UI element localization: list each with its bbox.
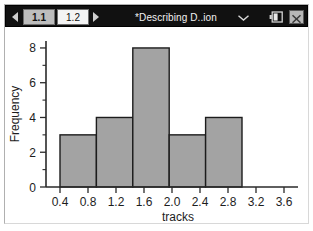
y-tick-label: 0 — [29, 181, 36, 195]
histogram-bar[interactable] — [133, 48, 169, 187]
x-tick-label: 2.4 — [192, 195, 209, 209]
x-tick-label: 0.4 — [52, 195, 69, 209]
x-tick-label: 0.8 — [80, 195, 97, 209]
histogram-svg: 0.40.81.21.62.02.42.83.23.6 02468 tracks… — [6, 29, 306, 222]
histogram-bar[interactable] — [169, 135, 205, 187]
document-title: *Describing D..ion — [106, 10, 246, 25]
tablet-screenshot: 1.1 1.2 *Describing D..ion 0.40.81.21.62… — [0, 0, 313, 231]
histogram-bar[interactable] — [206, 117, 242, 187]
page-tab-1-2[interactable]: 1.2 — [57, 9, 89, 25]
histogram-plot: 0.40.81.21.62.02.42.83.23.6 02468 tracks… — [6, 29, 306, 222]
y-tick-label: 6 — [29, 76, 36, 90]
y-tick-label: 2 — [29, 146, 36, 160]
title-bar: 1.1 1.2 *Describing D..ion — [5, 5, 308, 27]
x-tick-label: 3.6 — [276, 195, 293, 209]
y-tick-label: 4 — [29, 111, 36, 125]
x-axis-ticks: 0.40.81.21.62.02.42.83.23.6 — [52, 187, 293, 209]
y-axis-label: Frequency — [8, 86, 22, 143]
chevron-down-icon[interactable] — [238, 15, 249, 21]
close-button[interactable] — [289, 10, 304, 24]
page-tab-1-1[interactable]: 1.1 — [23, 9, 55, 25]
battery-icon — [269, 11, 285, 23]
x-tick-label: 2.8 — [220, 195, 237, 209]
x-tick-label: 1.2 — [108, 195, 125, 209]
x-tick-label: 2.0 — [164, 195, 181, 209]
histogram-bar[interactable] — [60, 135, 96, 187]
close-icon — [290, 13, 303, 25]
x-tick-label: 1.6 — [136, 195, 153, 209]
x-axis-label: tracks — [162, 210, 194, 222]
y-tick-label: 8 — [29, 41, 36, 55]
x-tick-label: 3.2 — [248, 195, 265, 209]
triangle-left-icon[interactable] — [12, 12, 18, 22]
triangle-right-icon[interactable] — [93, 12, 99, 22]
histogram-bar[interactable] — [96, 117, 132, 187]
